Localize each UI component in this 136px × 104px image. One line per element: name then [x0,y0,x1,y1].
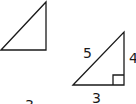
hypotenuse-label: 5 [83,45,92,61]
left-triangle [1,2,46,50]
vertical-leg-label: 4 [129,50,136,66]
base-label: 3 [92,90,101,104]
right-triangle [73,32,124,85]
right-angle-marker [113,75,124,85]
diagram-canvas: 3 5 4 3 [0,0,136,104]
left-triangle-base-label: 3 [25,97,34,104]
